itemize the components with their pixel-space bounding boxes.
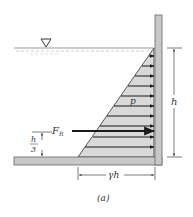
water-surface xyxy=(14,48,154,54)
base-pressure-label: γh xyxy=(108,170,119,180)
centroid-label-numerator: h xyxy=(31,135,36,144)
figure-caption: (a) xyxy=(97,193,110,203)
resultant-force-label: FR xyxy=(51,125,64,137)
hydrostatic-diagram: FR p h h 3 γh (a) xyxy=(0,0,193,217)
depth-label: h xyxy=(171,96,177,107)
base-slab xyxy=(14,157,162,165)
water-surface-triangle-icon xyxy=(41,39,51,47)
vertical-wall xyxy=(155,15,162,165)
pressure-label: p xyxy=(130,96,136,106)
centroid-label-denominator: 3 xyxy=(31,145,36,154)
pressure-distribution xyxy=(78,48,154,157)
